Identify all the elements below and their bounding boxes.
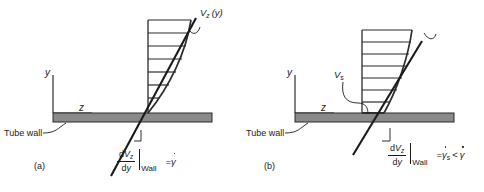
panel-caption-a: (a) [34,162,45,171]
evaluated-at-label-a: Wall [141,164,156,173]
equation-rhs-b: =γs < γ [437,149,465,161]
y-axis-label-b: y [287,68,292,78]
comparison-operator-b: < [452,149,458,160]
tube-wall-leader-a [43,123,66,133]
slip-shear-rate-sub-b: s [447,154,450,161]
panel-b-slip: y z Tube wall Vs (b) dVz dy Wall =γs < γ [242,0,484,192]
panel-a-no-slip: y z Tube wall Vz (y) (a) dVz dy Wall =γ [0,0,242,192]
wall-gradient-equation-b: dVz dy Wall =γs < γ [388,143,464,167]
derivative-numerator-b: dVz [388,143,406,156]
derivative-fraction-a: dVz dy [117,149,135,173]
profile-label-sub-a: z [206,12,209,19]
z-axis-label-a: z [79,103,84,113]
derivative-denominator-a: dy [119,162,133,173]
bulk-shear-rate-symbol-b: γ [460,149,465,160]
velocity-profile-label-a: Vz (y) [200,8,223,20]
slip-label-sub-b: s [340,74,343,81]
evaluated-at-label-b: Wall [412,158,427,167]
derivative-fraction-b: dVz dy [388,143,406,167]
z-axis-label-b: z [321,103,326,113]
tube-wall-bar-a [53,113,212,122]
slip-shear-rate-symbol-b: γ [442,149,447,160]
derivative-denominator-b: dy [390,156,404,167]
slip-velocity-label-leader-b [343,82,368,114]
evaluation-bar-a [139,149,140,170]
shear-rate-symbol-a: γ [171,156,176,167]
y-axis-label-a: y [45,68,50,78]
evaluation-bar-b [410,143,411,164]
slope-triangle-b [382,128,390,141]
tube-wall-leader-b [285,123,308,133]
slip-velocity-label-b: Vs [334,70,344,82]
axes-b [295,75,334,113]
panel-caption-b: (b) [264,162,275,171]
denominator-var-a: y [126,163,131,173]
profile-label-arg-a: (y) [212,7,223,18]
axes-a [53,75,92,113]
denominator-var-b: y [397,157,402,167]
equation-rhs-a: =γ [166,156,176,167]
profile-top-leader-b [424,33,436,39]
wall-tangent-line-b [353,41,422,155]
derivative-numerator-a: dVz [117,149,135,162]
velocity-profile-rungs-a [148,20,191,98]
numerator-sub-b: z [401,147,404,154]
tube-wall-label-a: Tube wall [4,129,42,138]
numerator-sub-a: z [130,153,133,160]
figure-root: y z Tube wall Vz (y) (a) dVz dy Wall =γ [0,0,484,192]
wall-gradient-equation-a: dVz dy Wall =γ [117,149,176,173]
tube-wall-label-b: Tube wall [246,129,284,138]
